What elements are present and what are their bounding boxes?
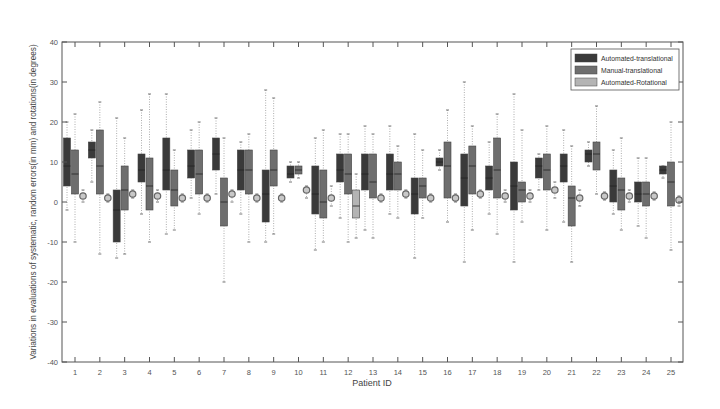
box-body	[171, 170, 178, 206]
boxplot-chart: -40-30-20-10010203040 123456789101112131…	[0, 0, 720, 409]
box-body	[601, 193, 607, 199]
box-body	[80, 193, 86, 199]
y-tick-label: -10	[47, 238, 58, 247]
box-body	[419, 178, 426, 198]
legend-label: Automated-translational	[601, 55, 673, 62]
box-manual-translational-14	[394, 146, 401, 218]
box-manual-translational-25	[668, 122, 675, 250]
box-body	[353, 190, 360, 218]
box-body	[312, 166, 319, 214]
box-automated-translational-13	[362, 126, 369, 230]
box-automated-rotational-25	[676, 196, 682, 206]
box-automated-rotational-19	[527, 190, 533, 202]
box-body	[229, 191, 235, 197]
box-manual-translational-11	[320, 130, 327, 242]
box-body	[72, 150, 79, 194]
box-manual-translational-8	[245, 134, 252, 242]
box-body	[113, 190, 120, 242]
box-manual-translational-18	[494, 114, 501, 234]
box-manual-translational-20	[543, 126, 550, 230]
x-tick-label: 19	[518, 368, 526, 377]
box-body	[618, 178, 625, 210]
box-manual-translational-17	[469, 126, 476, 230]
x-tick-label: 7	[222, 368, 226, 377]
x-axis-label: Patient ID	[352, 378, 392, 388]
box-manual-translational-7	[221, 138, 228, 282]
box-body	[204, 195, 210, 201]
y-tick-label: 10	[50, 158, 58, 167]
box-body	[560, 154, 567, 182]
y-tick-label: -30	[47, 318, 58, 327]
box-manual-translational-10	[295, 162, 302, 178]
box-automated-rotational-9	[278, 194, 284, 202]
box-body	[411, 178, 418, 214]
x-tick-label: 10	[294, 368, 302, 377]
box-body	[444, 142, 451, 198]
box-body	[452, 195, 458, 201]
box-automated-translational-25	[660, 166, 667, 178]
box-body	[163, 138, 170, 190]
box-automated-translational-18	[486, 142, 493, 214]
x-tick-label: 21	[567, 368, 575, 377]
box-automated-rotational-13	[378, 194, 384, 202]
box-automated-translational-19	[511, 94, 518, 262]
box-automated-rotational-21	[576, 190, 582, 206]
box-body	[576, 195, 582, 201]
x-tick-label: 14	[394, 368, 402, 377]
box-body	[154, 193, 160, 199]
x-tick-label: 17	[468, 368, 476, 377]
y-tick-label: 20	[50, 118, 58, 127]
box-body	[477, 191, 483, 197]
x-tick-label: 13	[369, 368, 377, 377]
box-automated-translational-5	[163, 94, 170, 234]
x-tick-label: 16	[443, 368, 451, 377]
box-automated-translational-21	[560, 130, 567, 222]
box-manual-translational-13	[370, 134, 377, 238]
box-body	[179, 195, 185, 201]
box-body	[552, 187, 558, 193]
box-manual-translational-22	[593, 106, 600, 194]
box-body	[270, 150, 277, 186]
box-automated-rotational-15	[427, 194, 433, 202]
box-automated-translational-1	[64, 122, 71, 210]
box-body	[370, 154, 377, 198]
box-body	[196, 150, 203, 194]
box-automated-rotational-24	[651, 192, 657, 200]
box-body	[626, 193, 632, 199]
x-tick-label: 9	[272, 368, 276, 377]
box-automated-translational-17	[461, 82, 468, 262]
box-manual-translational-5	[171, 150, 178, 230]
y-tick-label: -20	[47, 278, 58, 287]
box-automated-rotational-7	[229, 190, 235, 202]
box-automated-rotational-20	[552, 182, 558, 198]
box-body	[568, 186, 575, 226]
box-automated-translational-6	[188, 130, 195, 198]
x-tick-label: 1	[73, 368, 77, 377]
box-body	[494, 138, 501, 198]
box-body	[303, 187, 309, 193]
box-automated-translational-11	[312, 138, 319, 250]
box-automated-rotational-6	[204, 194, 210, 202]
box-body	[254, 195, 260, 201]
box-automated-translational-9	[262, 90, 269, 242]
y-axis-label: Variations in evaluations of systematic,…	[29, 44, 38, 359]
legend-swatch	[575, 78, 597, 86]
box-automated-rotational-3	[129, 190, 135, 198]
box-body	[403, 191, 409, 197]
box-body	[138, 154, 145, 182]
box-automated-rotational-23	[626, 190, 632, 202]
y-tick-label: 40	[50, 38, 58, 47]
box-body	[394, 162, 401, 190]
box-automated-translational-23	[610, 150, 617, 214]
x-tick-label: 18	[493, 368, 501, 377]
box-body	[469, 146, 476, 194]
box-body	[121, 166, 128, 210]
legend: Automated-translationalManual-translatio…	[571, 49, 679, 90]
box-manual-translational-12	[345, 134, 352, 242]
box-automated-rotational-10	[303, 186, 309, 198]
legend-label: Manual-translational	[601, 67, 663, 74]
box-body	[337, 154, 344, 182]
box-automated-rotational-2	[105, 194, 111, 202]
box-body	[651, 193, 657, 199]
box-body	[362, 154, 369, 190]
